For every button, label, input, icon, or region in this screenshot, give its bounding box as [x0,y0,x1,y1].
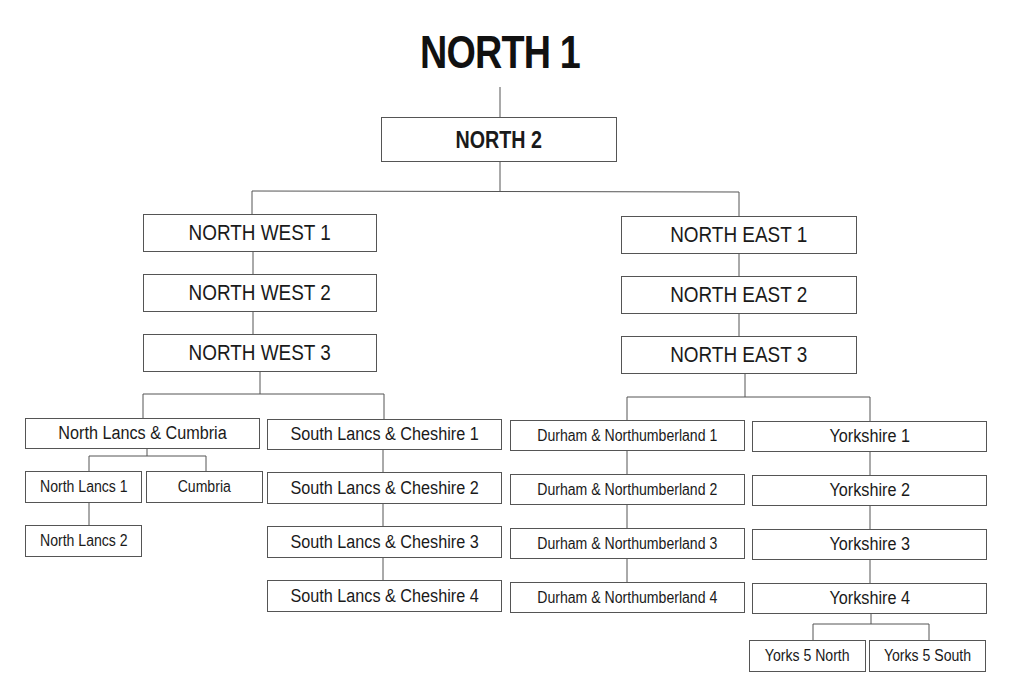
node-label: Yorkshire 1 [829,426,909,447]
node-durham-northumberland-4[interactable]: Durham & Northumberland 4 [510,582,745,613]
node-label: Durham & Northumberland 4 [537,589,717,607]
node-label: NORTH WEST 3 [189,340,331,366]
node-label: Yorkshire 4 [829,588,909,609]
node-north-east-3[interactable]: NORTH EAST 3 [621,336,857,374]
node-label: NORTH WEST 1 [189,220,331,246]
node-label: South Lancs & Cheshire 3 [290,532,478,553]
node-durham-northumberland-3[interactable]: Durham & Northumberland 3 [510,528,745,559]
node-label: Cumbria [178,478,231,496]
node-label: NORTH WEST 2 [189,280,331,306]
node-north-lancs-2[interactable]: North Lancs 2 [25,525,142,557]
node-north-lancs-cumbria[interactable]: North Lancs & Cumbria [25,418,260,449]
node-yorkshire-2[interactable]: Yorkshire 2 [752,475,987,506]
node-label: Durham & Northumberland 2 [537,481,717,499]
node-north-lancs-1[interactable]: North Lancs 1 [25,471,142,503]
node-north-east-1[interactable]: NORTH EAST 1 [621,216,857,254]
node-label: Durham & Northumberland 1 [537,427,717,445]
node-south-lancs-cheshire-4[interactable]: South Lancs & Cheshire 4 [267,580,502,612]
node-label: NORTH 2 [456,126,542,154]
node-yorkshire-1[interactable]: Yorkshire 1 [752,421,987,452]
node-yorkshire-3[interactable]: Yorkshire 3 [752,529,987,560]
node-north-west-3[interactable]: NORTH WEST 3 [143,334,377,372]
node-yorks-5-south[interactable]: Yorks 5 South [869,640,986,672]
connector [252,191,739,192]
node-label: North Lancs & Cumbria [58,423,226,444]
chart-title: NORTH 1 [402,28,599,76]
node-durham-northumberland-2[interactable]: Durham & Northumberland 2 [510,474,745,505]
node-label: Yorkshire 2 [829,480,909,501]
node-north-west-1[interactable]: NORTH WEST 1 [143,214,377,252]
node-label: North Lancs 1 [40,478,128,496]
node-label: South Lancs & Cheshire 1 [290,424,478,445]
node-label: NORTH EAST 3 [670,342,807,368]
node-label: South Lancs & Cheshire 2 [290,478,478,499]
node-south-lancs-cheshire-1[interactable]: South Lancs & Cheshire 1 [267,419,502,450]
node-north-2[interactable]: NORTH 2 [381,117,617,162]
node-label: NORTH EAST 1 [670,222,807,248]
node-label: Yorkshire 3 [829,534,909,555]
node-north-east-2[interactable]: NORTH EAST 2 [621,276,857,314]
node-label: Yorks 5 North [765,647,850,665]
node-south-lancs-cheshire-3[interactable]: South Lancs & Cheshire 3 [267,526,502,558]
node-south-lancs-cheshire-2[interactable]: South Lancs & Cheshire 2 [267,472,502,504]
node-durham-northumberland-1[interactable]: Durham & Northumberland 1 [510,420,745,451]
node-yorks-5-north[interactable]: Yorks 5 North [749,640,866,672]
node-cumbria[interactable]: Cumbria [146,471,263,503]
node-north-west-2[interactable]: NORTH WEST 2 [143,274,377,312]
node-label: NORTH EAST 2 [670,282,807,308]
node-label: South Lancs & Cheshire 4 [290,586,478,607]
node-yorkshire-4[interactable]: Yorkshire 4 [752,583,987,614]
node-label: Durham & Northumberland 3 [537,535,717,553]
node-label: North Lancs 2 [40,532,128,550]
node-label: Yorks 5 South [884,647,971,665]
